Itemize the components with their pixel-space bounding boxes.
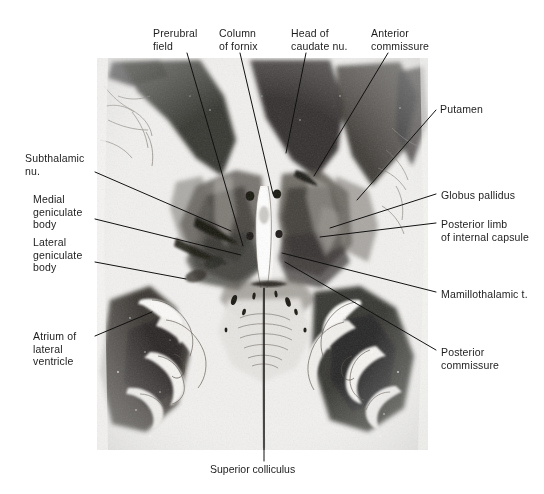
leader-line-subthalamic-nu [95,172,231,231]
leader-line-posterior-commissure [285,262,436,350]
leader-line-posterior-limb-of-internal-capsule [320,223,436,237]
leader-line-atrium-of-lateral-ventricle [95,312,152,336]
leader-line-medial-geniculate-body [95,219,241,255]
leader-line-globus-pallidus [330,194,436,228]
label-anterior-commissure: Anterior commissure [371,27,429,52]
label-superior-colliculus: Superior colliculus [210,463,295,476]
label-lateral-geniculate-body: Lateral geniculate body [33,236,82,274]
label-column-of-fornix: Column of fornix [219,27,258,52]
leader-line-mamillothalamic-t [282,253,436,292]
leader-line-head-of-caudate-nu [286,53,306,153]
leader-line-prerubral-field [187,53,243,246]
label-subthalamic-nu: Subthalamic nu. [25,152,84,177]
label-globus-pallidus: Globus pallidus [441,189,515,202]
label-atrium-of-lateral-ventricle: Atrium of lateral ventricle [33,330,76,368]
label-head-of-caudate-nu: Head of caudate nu. [291,27,348,52]
leader-line-column-of-fornix [240,53,273,194]
label-posterior-limb-of-internal-capsule: Posterior limb of internal capsule [441,218,529,243]
label-putamen: Putamen [440,103,483,116]
label-posterior-commissure: Posterior commissure [441,346,499,371]
label-medial-geniculate-body: Medial geniculate body [33,193,82,231]
leader-line-anterior-commissure [314,53,388,176]
leader-line-putamen [357,110,436,200]
brain-section-figure: Prerubral field Column of fornix Head of… [0,0,544,494]
leader-line-lateral-geniculate-body [95,262,186,279]
label-prerubral-field: Prerubral field [153,27,198,52]
label-mamillothalamic-t: Mamillothalamic t. [441,288,528,301]
